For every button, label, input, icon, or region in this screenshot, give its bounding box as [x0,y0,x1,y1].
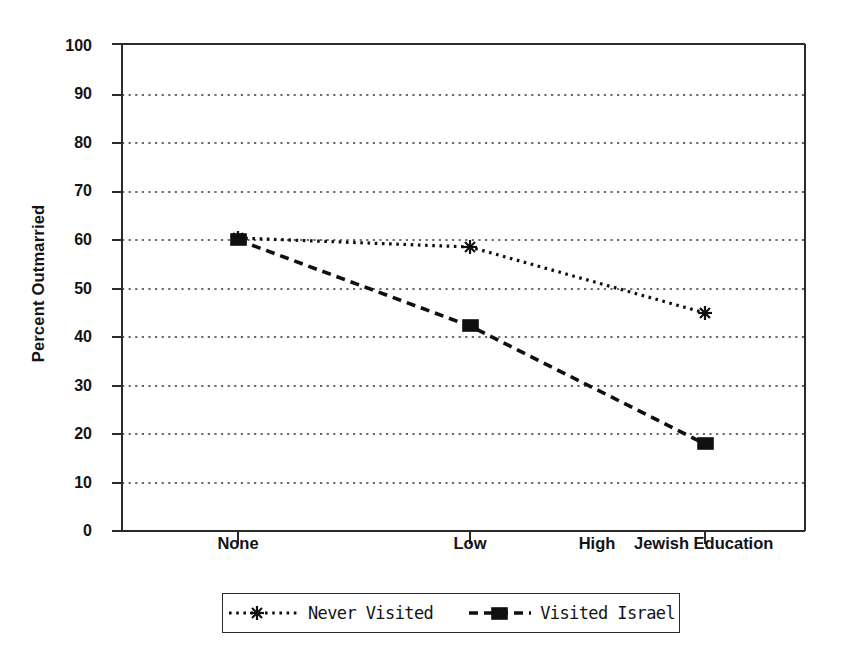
square-marker-icon [231,234,713,449]
legend-label-never-visited: Never Visited [308,603,433,623]
chart-figure: Percent Outmarried 100 90 80 70 60 50 40… [0,0,855,665]
chart-legend: Never Visited Visited Israel [222,593,680,633]
x-tick-label-none: None [217,534,258,553]
legend-label-visited-israel: Visited Israel [540,603,675,623]
plot-area [0,0,855,665]
x-axis-title: Jewish Education [634,534,773,553]
legend-item-visited-israel: Visited Israel [467,603,675,623]
x-tick-label-low: Low [454,534,487,553]
legend-item-never-visited: Never Visited [227,603,433,623]
star-marker-icon [231,231,712,320]
series-visited-israel [231,234,713,449]
plot-frame [122,44,805,531]
square-marker-icon [467,604,533,622]
y-axis-ticks [112,44,122,531]
gridlines [122,95,805,483]
star-marker-icon [227,604,301,622]
x-tick-label-high: High [579,534,616,553]
series-never-visited [231,231,712,320]
